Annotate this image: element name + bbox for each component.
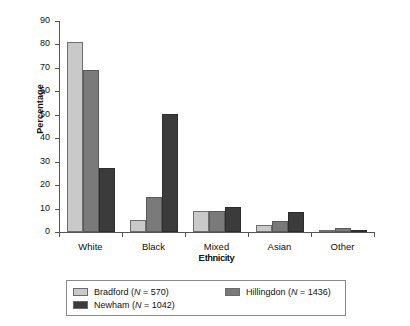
x-label-line: Asian — [248, 241, 311, 252]
x-tick-mark — [185, 232, 186, 237]
bars — [185, 21, 248, 232]
bar-bradford-mixed-ethnicity — [193, 211, 209, 232]
bar-group-other — [311, 21, 374, 232]
bar-hillingdon-asian — [272, 221, 288, 232]
chart-legend: Bradford (N = 570) Hillingdon (N = 1436)… — [66, 280, 346, 316]
bar-hillingdon-other — [335, 228, 351, 232]
y-tick-label: 50 — [24, 109, 50, 119]
legend-item-hillingdon: Hillingdon (N = 1436) — [225, 287, 331, 297]
x-axis-line — [59, 232, 375, 233]
bar-bradford-other — [319, 230, 335, 232]
legend-row-1: Bradford (N = 570) Hillingdon (N = 1436) — [73, 285, 339, 298]
y-tick-label: 70 — [24, 62, 50, 72]
bar-bradford-asian — [256, 225, 272, 232]
x-label-line: Other — [311, 241, 374, 252]
legend-row-2: Newham (N = 1042) — [73, 298, 339, 311]
legend-item-newham: Newham (N = 1042) — [73, 300, 225, 310]
y-tick-label: 0 — [24, 226, 50, 236]
bar-hillingdon-white — [83, 70, 99, 232]
y-tick-label: 10 — [24, 203, 50, 213]
y-tick-label: 40 — [24, 132, 50, 142]
legend-item-bradford: Bradford (N = 570) — [73, 287, 225, 297]
x-label-line: Mixed — [185, 241, 248, 252]
bar-group-mixed-ethnicity — [185, 21, 248, 232]
bars — [311, 21, 374, 232]
bar-group-white — [59, 21, 122, 232]
bar-group-black — [122, 21, 185, 232]
bar-newham-black — [162, 114, 178, 232]
legend-swatch-bradford — [73, 288, 88, 296]
legend-label-newham: Newham (N = 1042) — [94, 300, 175, 310]
x-tick-mark — [122, 232, 123, 237]
x-tick-mark — [59, 232, 60, 237]
bar-newham-white — [99, 168, 115, 232]
bar-hillingdon-mixed-ethnicity — [209, 211, 225, 232]
y-tick-label: 20 — [24, 179, 50, 189]
y-tick-label: 90 — [24, 15, 50, 25]
legend-label-bradford: Bradford (N = 570) — [94, 287, 169, 297]
x-tick-mark — [374, 232, 375, 237]
legend-swatch-hillingdon — [225, 288, 240, 296]
y-tick-label: 60 — [24, 85, 50, 95]
bar-newham-mixed-ethnicity — [225, 207, 241, 232]
x-tick-mark — [311, 232, 312, 237]
bar-bradford-black — [130, 220, 146, 232]
x-label-line: Black — [122, 241, 185, 252]
legend-label-hillingdon: Hillingdon (N = 1436) — [246, 287, 331, 297]
bars — [248, 21, 311, 232]
bar-group-asian — [248, 21, 311, 232]
bars — [59, 21, 122, 232]
bar-bradford-white — [67, 42, 83, 232]
x-label-other: Other — [311, 241, 374, 252]
x-label-black: Black — [122, 241, 185, 252]
bars — [122, 21, 185, 232]
bar-hillingdon-black — [146, 197, 162, 232]
y-tick-label: 80 — [24, 38, 50, 48]
x-label-line: White — [59, 241, 122, 252]
bar-newham-other — [351, 230, 367, 232]
bar-newham-asian — [288, 212, 304, 232]
x-axis-title: Ethnicity — [185, 252, 248, 263]
x-label-white: White — [59, 241, 122, 252]
legend-swatch-newham — [73, 301, 88, 309]
plot-area — [59, 21, 374, 232]
x-label-asian: Asian — [248, 241, 311, 252]
bar-chart: Percentage 9080706050403020100 WhiteBlac… — [0, 0, 410, 326]
x-tick-mark — [248, 232, 249, 237]
y-tick-label: 30 — [24, 156, 50, 166]
